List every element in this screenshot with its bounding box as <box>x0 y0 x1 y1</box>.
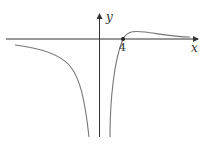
y-axis-label: y <box>105 10 113 24</box>
chart: y x 4 <box>0 0 213 156</box>
x-axis-label: x <box>191 41 198 55</box>
curve-left-branch <box>15 45 89 137</box>
x-intercept-label: 4 <box>119 41 126 54</box>
